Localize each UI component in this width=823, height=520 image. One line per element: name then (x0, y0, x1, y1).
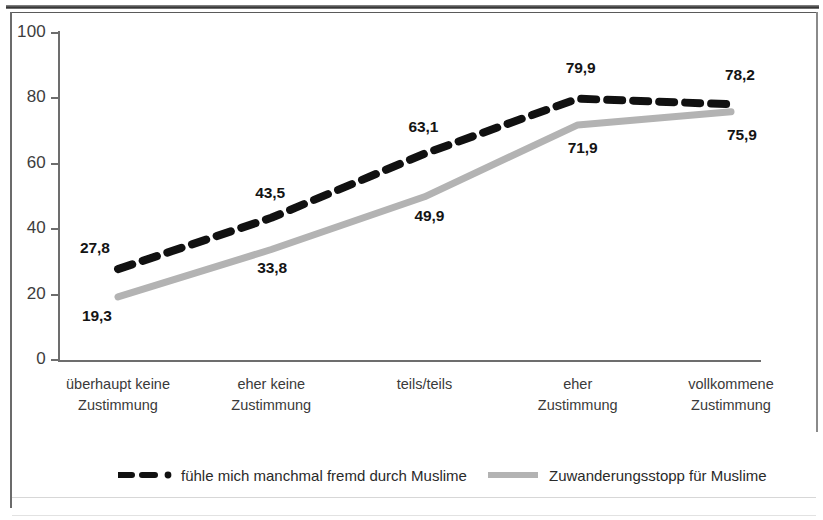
x-axis-category-line: Zustimmung (646, 395, 816, 416)
x-axis-category-line: teils/teils (340, 374, 510, 395)
x-axis-category-line: Zustimmung (186, 395, 356, 416)
x-axis-category-label: eher keineZustimmung (186, 374, 356, 416)
x-axis-category-line: Zustimmung (493, 395, 663, 416)
data-point-label: 43,5 (255, 184, 285, 202)
x-axis-category-label: teils/teils (340, 374, 510, 395)
x-axis-category-label: vollkommeneZustimmung (646, 374, 816, 416)
data-point-label: 71,9 (568, 139, 598, 157)
data-point-label: 78,2 (725, 66, 755, 84)
data-point-label: 79,9 (566, 59, 596, 77)
x-axis-category-label: überhaupt keineZustimmung (33, 374, 203, 416)
x-axis-category-line: vollkommene (646, 374, 816, 395)
dashed-line-icon (118, 466, 174, 484)
data-point-label: 27,8 (80, 239, 110, 257)
legend-label: fühle mich manchmal fremd durch Muslime (181, 467, 467, 484)
data-point-label: 19,3 (82, 307, 112, 325)
data-point-label: 75,9 (727, 126, 757, 144)
legend-item-zuwanderungsstopp[interactable]: Zuwanderungsstopp für Muslime (486, 462, 767, 488)
x-axis-category-label: eherZustimmung (493, 374, 663, 416)
data-point-label: 33,8 (257, 259, 287, 277)
x-axis-category-line: überhaupt keine (33, 374, 203, 395)
x-axis-category-line: eher (493, 374, 663, 395)
solid-line-icon (486, 466, 542, 484)
x-axis-category-line: Zustimmung (33, 395, 203, 416)
series-layer (0, 0, 823, 520)
data-point-label: 49,9 (415, 207, 445, 225)
chart-legend: fühle mich manchmal fremd durch MuslimeZ… (0, 462, 823, 488)
chart-page: 100806040200 27,843,563,179,978,219,333,… (0, 0, 823, 520)
x-axis-category-line: eher keine (186, 374, 356, 395)
legend-label: Zuwanderungsstopp für Muslime (549, 467, 767, 484)
data-point-label: 63,1 (409, 118, 439, 136)
series-line-zuwanderungsstopp (118, 112, 731, 297)
legend-item-fremd[interactable]: fühle mich manchmal fremd durch Muslime (118, 462, 467, 488)
